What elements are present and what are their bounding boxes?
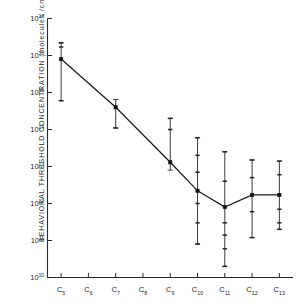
y-tick-label-text: 1017 (18, 13, 44, 23)
y-tick-label-text: 1013 (18, 161, 44, 171)
x-tick-label: C9 (157, 285, 183, 296)
y-tick-label: 1013 (18, 161, 44, 171)
x-tick-label: C10 (185, 285, 211, 296)
x-tick-label: C13 (266, 285, 292, 296)
y-tick-label-text: 1010 (18, 272, 44, 282)
y-tick-label: 1010 (18, 272, 44, 282)
x-tick-label: C11 (212, 285, 238, 296)
x-tick-label: C12 (239, 285, 265, 296)
y-tick-label: 1014 (18, 124, 44, 134)
x-tick-label: C5 (48, 285, 74, 296)
plot-area (0, 0, 302, 304)
y-tick-label-text: 1015 (18, 87, 44, 97)
y-tick-label-text: 1014 (18, 124, 44, 134)
y-tick-label-text: 1012 (18, 198, 44, 208)
y-tick-label-text: 1016 (18, 50, 44, 60)
x-tick-label: C8 (130, 285, 156, 296)
y-tick-label: 1017 (18, 13, 44, 23)
x-tick-label: C7 (103, 285, 129, 296)
y-tick-label: 1012 (18, 198, 44, 208)
figure: BEHAVIORAL THRESHOLD CONCENTRATION (mole… (0, 0, 302, 304)
error-bars (59, 43, 282, 267)
x-tick-label: C6 (75, 285, 101, 296)
y-tick-marks (48, 19, 53, 278)
y-tick-label: 1015 (18, 87, 44, 97)
y-tick-label: 1011 (18, 235, 44, 245)
y-tick-label-text: 1011 (18, 235, 44, 245)
y-tick-label: 1016 (18, 50, 44, 60)
x-tick-marks (61, 273, 279, 278)
